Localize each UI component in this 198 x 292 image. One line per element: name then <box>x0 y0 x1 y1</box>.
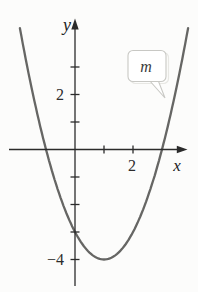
x-tick-label: 2 <box>128 157 136 174</box>
y-tick-label: 2 <box>56 86 64 103</box>
ticks-group <box>71 67 134 260</box>
callout-curve-name: m <box>140 58 152 75</box>
x-axis-arrowhead-icon <box>177 146 188 153</box>
curve-callout: m <box>128 51 169 99</box>
y-axis-arrowhead-icon <box>71 19 78 30</box>
tick-labels-group: 2−42 <box>47 86 136 268</box>
x-axis-label: x <box>172 156 181 175</box>
callout-tail <box>149 80 165 98</box>
y-axis-label: y <box>61 15 71 35</box>
y-tick-label: −4 <box>47 251 64 268</box>
parabola-figure: 2−42 y x m <box>0 0 198 292</box>
